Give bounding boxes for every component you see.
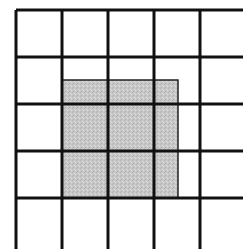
shaded-rectangle (62, 80, 178, 198)
shaded-region (62, 80, 178, 198)
grid-diagram (0, 0, 243, 249)
